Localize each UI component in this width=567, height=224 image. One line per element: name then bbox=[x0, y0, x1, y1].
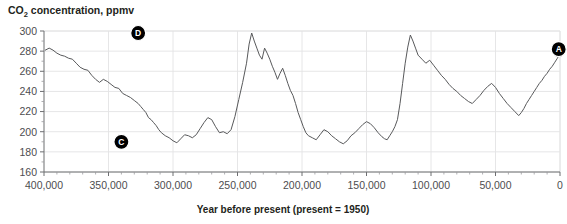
x-tick-label: 150,000 bbox=[348, 179, 386, 191]
y-axis-tick-labels: 300280260240220200180160 bbox=[19, 25, 37, 178]
chart-title: CO2 concentration, ppmv bbox=[8, 4, 134, 19]
annotation-marker-a[interactable]: A bbox=[551, 42, 566, 57]
y-tick-label: 260 bbox=[19, 65, 37, 77]
x-axis-title: Year before present (present = 1950) bbox=[197, 204, 370, 215]
y-tick-label: 300 bbox=[19, 25, 37, 37]
y-tick-label: 180 bbox=[19, 146, 37, 158]
x-tick-label: 200,000 bbox=[283, 179, 321, 191]
x-tick-label: 350,000 bbox=[90, 179, 128, 191]
annotation-marker-label: C bbox=[118, 137, 124, 147]
chart-svg-canvas: 300280260240220200180160 400,000350,0003… bbox=[0, 0, 567, 224]
chart-gridlines bbox=[44, 31, 560, 172]
x-tick-label: 250,000 bbox=[219, 179, 257, 191]
x-axis-ticks bbox=[44, 172, 560, 176]
y-axis-ticks bbox=[40, 31, 44, 172]
x-axis-tick-labels: 400,000350,000300,000250,000200,000150,0… bbox=[25, 179, 563, 191]
x-tick-label: 400,000 bbox=[25, 179, 63, 191]
annotation-marker-d[interactable]: D bbox=[131, 26, 146, 41]
x-tick-label: 0 bbox=[557, 179, 563, 191]
y-tick-label: 280 bbox=[19, 45, 37, 57]
co2-concentration-chart: 300280260240220200180160 400,000350,0003… bbox=[0, 0, 567, 224]
x-tick-label: 50,000 bbox=[479, 179, 511, 191]
x-tick-label: 300,000 bbox=[154, 179, 192, 191]
y-tick-label: 240 bbox=[19, 85, 37, 97]
chart-annotation-markers: DCA bbox=[114, 26, 566, 150]
annotation-marker-label: D bbox=[135, 28, 141, 38]
annotation-marker-c[interactable]: C bbox=[114, 134, 129, 149]
y-tick-label: 220 bbox=[19, 105, 37, 117]
y-tick-label: 160 bbox=[19, 166, 37, 178]
annotation-marker-label: A bbox=[556, 44, 562, 54]
x-tick-label: 100,000 bbox=[412, 179, 450, 191]
y-tick-label: 200 bbox=[19, 126, 37, 138]
